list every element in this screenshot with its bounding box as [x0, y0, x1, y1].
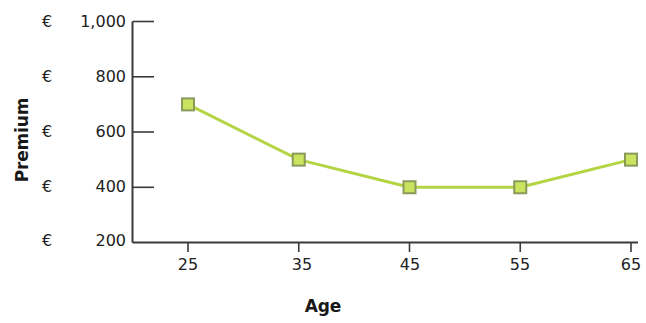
y-axis-ticks: [133, 22, 155, 188]
series-markers-premium: [182, 98, 637, 193]
data-point-45: [404, 181, 416, 193]
data-point-35: [293, 154, 305, 166]
data-point-65: [625, 154, 637, 166]
data-point-55: [514, 181, 526, 193]
series-line-premium: [188, 104, 631, 187]
x-axis-ticks: [188, 243, 631, 253]
premium-vs-age-line-chart: Premium 25 35 45 55 65 Age €1,000 €800 €…: [0, 0, 646, 323]
plot-area: [0, 0, 646, 323]
axis-lines: [133, 22, 639, 243]
data-point-25: [182, 98, 194, 110]
